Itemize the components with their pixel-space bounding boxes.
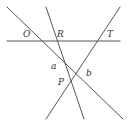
label-b: b	[86, 68, 92, 78]
label-a: a	[51, 61, 56, 71]
line-through-T	[46, 7, 120, 119]
label-P: P	[57, 77, 65, 87]
geometry-diagram: O R T a b P	[0, 0, 130, 126]
label-O: O	[23, 29, 31, 39]
label-R: R	[56, 29, 64, 39]
label-T: T	[107, 29, 114, 39]
